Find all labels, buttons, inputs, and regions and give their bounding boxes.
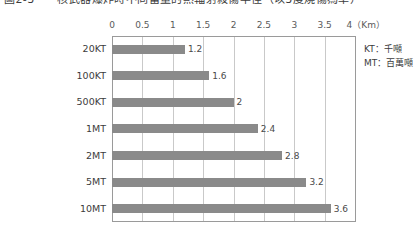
x-tick-label-0: 0 xyxy=(109,20,115,30)
bar-1MT[interactable] xyxy=(112,124,258,133)
bar-value-label-500KT: 2 xyxy=(234,96,243,108)
bar-row[interactable]: 2 xyxy=(112,89,355,116)
bar-value-label-5MT: 3.2 xyxy=(306,176,323,188)
bar-row[interactable]: 1.2 xyxy=(112,36,355,63)
legend-item-mt: MT：百萬噸 xyxy=(364,56,418,70)
bar-value-label-20KT: 1.2 xyxy=(185,43,202,55)
bar-value-label-100KT: 1.6 xyxy=(209,70,226,82)
bar-100KT[interactable] xyxy=(112,71,209,80)
plot-area: 00.511.522.533.54（Km）1.21.622.42.83.23.6 xyxy=(112,36,355,222)
bar-row[interactable]: 3.2 xyxy=(112,169,355,196)
bar-value-label-10MT: 3.6 xyxy=(331,203,348,215)
bar-5MT[interactable] xyxy=(112,178,306,187)
legend: KT：千噸MT：百萬噸 xyxy=(364,42,418,70)
legend-item-kt: KT：千噸 xyxy=(364,42,418,56)
bar-row[interactable]: 3.6 xyxy=(112,195,355,222)
x-tick-label-1-5: 1.5 xyxy=(196,20,210,30)
x-tick-label-1: 1 xyxy=(170,20,176,30)
x-tick-label-2-5: 2.5 xyxy=(257,20,271,30)
bar-value-label-1MT: 2.4 xyxy=(258,123,275,135)
bar-row[interactable]: 2.8 xyxy=(112,142,355,169)
category-label-20KT: 20KT xyxy=(83,43,106,55)
category-label-5MT: 5MT xyxy=(86,176,106,188)
x-tick-label-4: 4（Km） xyxy=(347,20,385,30)
category-label-2MT: 2MT xyxy=(86,150,106,162)
category-label-1MT: 1MT xyxy=(86,123,106,135)
bar-20KT[interactable] xyxy=(112,45,185,54)
x-tick-label-2: 2 xyxy=(231,20,237,30)
bar-row[interactable]: 2.4 xyxy=(112,116,355,143)
x-tick-label-3-5: 3.5 xyxy=(317,20,331,30)
x-tick-label-0-5: 0.5 xyxy=(135,20,149,30)
bar-2MT[interactable] xyxy=(112,151,282,160)
bar-500KT[interactable] xyxy=(112,98,234,107)
category-label-10MT: 10MT xyxy=(80,203,106,215)
category-axis: 20KT100KT500KT1MT2MT5MT10MT xyxy=(0,36,106,222)
bar-row[interactable]: 1.6 xyxy=(112,63,355,90)
category-label-100KT: 100KT xyxy=(77,70,106,82)
bar-chart: 20KT100KT500KT1MT2MT5MT10MT 00.511.522.5… xyxy=(0,0,418,246)
gridline-4 xyxy=(355,36,356,222)
x-tick-label-3: 3 xyxy=(291,20,297,30)
category-label-500KT: 500KT xyxy=(77,96,106,108)
bar-value-label-2MT: 2.8 xyxy=(282,150,299,162)
bar-10MT[interactable] xyxy=(112,204,331,213)
